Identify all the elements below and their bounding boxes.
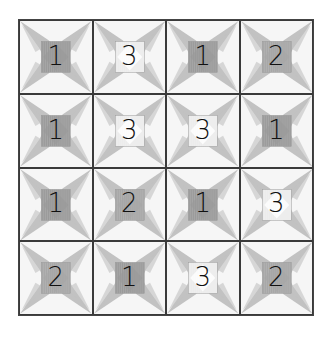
tile-number: 3: [167, 265, 239, 291]
puzzle-tile-r4-c2[interactable]: 1: [93, 241, 167, 315]
tile-number: 3: [94, 43, 166, 69]
tile-number: 1: [241, 117, 313, 143]
puzzle-tile-r3-c2[interactable]: 2: [93, 168, 167, 242]
puzzle-tile-r4-c3[interactable]: 3: [166, 241, 240, 315]
puzzle-tile-r3-c4[interactable]: 3: [240, 168, 314, 242]
tile-number: 2: [20, 265, 92, 291]
puzzle-tile-r2-c2[interactable]: 3: [93, 94, 167, 168]
puzzle-tile-r4-c4[interactable]: 2: [240, 241, 314, 315]
puzzle-board: 1312133112132132: [18, 19, 314, 316]
puzzle-tile-r1-c4[interactable]: 2: [240, 20, 314, 94]
puzzle-tile-r3-c1[interactable]: 1: [19, 168, 93, 242]
puzzle-tile-r2-c1[interactable]: 1: [19, 94, 93, 168]
tile-number: 3: [94, 117, 166, 143]
tile-number: 2: [94, 191, 166, 217]
tile-number: 1: [167, 43, 239, 69]
tile-number: 1: [20, 191, 92, 217]
puzzle-tile-r1-c1[interactable]: 1: [19, 20, 93, 94]
puzzle-tile-r4-c1[interactable]: 2: [19, 241, 93, 315]
puzzle-tile-r2-c3[interactable]: 3: [166, 94, 240, 168]
tile-number: 1: [94, 265, 166, 291]
tile-number: 3: [241, 191, 313, 217]
puzzle-tile-r1-c3[interactable]: 1: [166, 20, 240, 94]
tile-number: 1: [20, 117, 92, 143]
tile-number: 3: [167, 117, 239, 143]
tile-number: 2: [241, 265, 313, 291]
tile-number: 1: [20, 43, 92, 69]
puzzle-tile-r2-c4[interactable]: 1: [240, 94, 314, 168]
puzzle-tile-r3-c3[interactable]: 1: [166, 168, 240, 242]
tile-number: 2: [241, 43, 313, 69]
puzzle-tile-r1-c2[interactable]: 3: [93, 20, 167, 94]
tile-number: 1: [167, 191, 239, 217]
